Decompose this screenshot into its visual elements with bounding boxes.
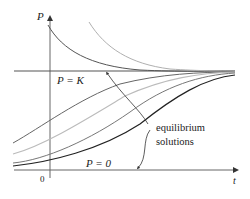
origin-label: 0 xyxy=(40,174,45,184)
pointer-to-zero xyxy=(138,130,150,168)
curve-above-k-dark xyxy=(48,25,235,71)
equilibrium-k-label: P = K xyxy=(56,74,84,86)
pointer-to-K xyxy=(107,73,148,124)
annotation-line-2: solutions xyxy=(156,136,194,147)
equilibrium-zero-label: P = 0 xyxy=(85,157,111,169)
growth-curve-4 xyxy=(13,75,235,166)
t-axis-label: t xyxy=(233,175,236,186)
logistic-diagram: P t 0 P = K P = 0 equilibrium solutions xyxy=(0,0,250,199)
curve-above-k-light xyxy=(89,22,235,71)
annotation-line-1: equilibrium xyxy=(156,122,205,133)
p-axis-label: P xyxy=(36,10,44,22)
growth-curve-3 xyxy=(13,73,235,163)
